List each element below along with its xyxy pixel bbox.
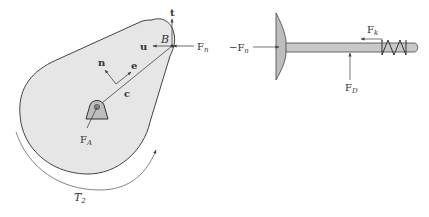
mechanism-diagram: t u B Fn n e c FA T2 −Fn Fk FD	[0, 0, 429, 217]
label-fn: Fn	[197, 41, 209, 54]
cam-body	[20, 19, 175, 174]
valve-stem	[284, 43, 418, 52]
label-b: B	[160, 33, 169, 46]
fk-force-arrow	[361, 39, 382, 42]
label-t2: T2	[74, 191, 86, 205]
label-fk: Fk	[367, 24, 378, 37]
point-b	[171, 45, 174, 48]
label-fd: FD	[345, 82, 358, 95]
label-neg-fn: −Fn	[229, 42, 249, 55]
label-u: u	[140, 41, 147, 52]
label-e: e	[131, 60, 137, 71]
label-c: c	[124, 88, 130, 99]
label-t: t	[170, 7, 175, 18]
valve-panel: −Fn Fk FD	[229, 13, 418, 95]
valve-head	[276, 13, 286, 80]
label-n: n	[98, 57, 106, 68]
cam-panel: t u B Fn n e c FA T2	[16, 7, 209, 205]
